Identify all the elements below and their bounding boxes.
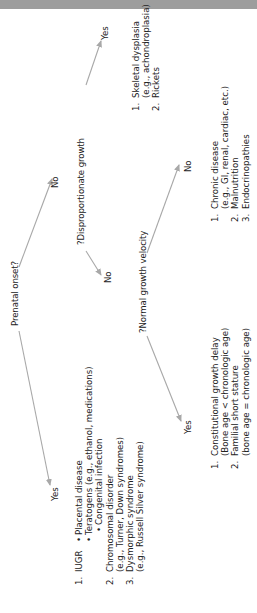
list-item: 2. Malnutrition [230,86,240,222]
list-item: 1. IUGR •Placental disease •Teratogens (… [74,366,105,585]
list-item: •Placental disease [74,366,84,542]
arrow-disprop-yes [86,41,101,85]
normal-velocity-causes-list: 1. Constitutional growth delay (Bone age… [210,328,251,469]
disproportionate-yes-label: Yes [100,26,110,40]
list-item: 2. Rickets [151,4,161,111]
disproportionate-no-label: No [103,272,113,284]
velocity-yes-label: Yes [183,420,193,434]
disproportionate-causes-list: 1. Skeletal dysplasia (e.g., achondropla… [131,4,162,111]
abnormal-velocity-causes-list: 1. Chronic disease (e.g., GI, renal, car… [210,86,251,222]
list-item: 1. Skeletal dysplasia [131,4,141,111]
arrow-disprop-no [86,251,101,275]
velocity-no-label: No [183,161,193,173]
root-question: Prenatal onset? [10,261,20,326]
disproportionate-question: ?Disproportionate growth [76,138,86,245]
list-item: 3. Endocrinopathies [241,86,251,222]
bullet-icon: • [74,535,84,542]
list-item: 1. Chronic disease [210,86,220,222]
arrow-velocity-no [147,165,179,253]
flowchart-canvas: Prenatal onset? Yes No 1. IUGR •Placenta… [0,0,257,613]
list-item: •Teratogens (e.g., ethanol, medications) [84,366,94,542]
list-item: •Congenital infection [94,366,104,542]
list-item: 1. Constitutional growth delay [210,328,220,469]
bullet-icon: • [84,535,94,542]
prenatal-no-label: No [50,177,60,189]
arrow-prenatal-yes [19,331,50,485]
arrow-prenatal-no [19,179,52,267]
bullet-icon: • [94,525,104,532]
arrow-velocity-yes [147,336,181,421]
list-item: 3. Dysmorphic syndrome [125,366,135,585]
prenatal-causes-list: 1. IUGR •Placental disease •Teratogens (… [74,366,145,585]
velocity-question: ?Normal growth velocity [138,231,148,333]
list-item: 2. Familial short stature [230,328,240,469]
list-item: 2. Chromosomal disorder [105,366,115,585]
prenatal-yes-label: Yes [50,487,60,501]
